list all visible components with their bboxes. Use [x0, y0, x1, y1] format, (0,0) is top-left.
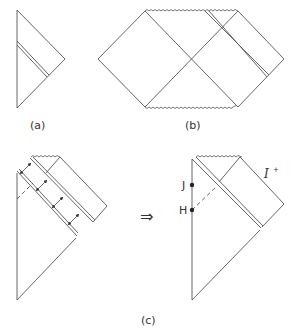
panel-b-left-edges	[98, 11, 145, 107]
panel-a-shell-line-2	[17, 45, 47, 77]
panel-c-right-diagram	[190, 156, 284, 301]
panel-c-left-arrow-1	[21, 164, 30, 173]
panel-c-label: (c)	[141, 314, 156, 327]
panel-a-diagram	[17, 10, 65, 108]
penrose-diagram-figure: (a) (b) ⇒ J	[0, 0, 295, 335]
panel-c-right-inner-edge	[219, 157, 240, 182]
panel-b-label: (b)	[185, 119, 201, 132]
point-h-label: H	[179, 204, 187, 217]
implies-arrow-icon: ⇒	[140, 207, 153, 226]
panel-c-left-arrow-2	[37, 181, 46, 190]
panel-b-right-edges	[238, 11, 284, 107]
panel-c-left-shell-outer-1	[30, 158, 93, 222]
panel-b-diagram	[98, 10, 284, 109]
panel-b-top-singularity	[145, 10, 238, 12]
point-j-dot	[190, 183, 194, 187]
panel-b-shell-line-2	[209, 11, 267, 77]
panel-c-left-shell-outer-2	[33, 157, 95, 220]
panel-c-right-shell-line-2	[196, 157, 263, 226]
panel-c-left-arrow-4	[69, 215, 78, 224]
panel-c-left-arrow-3	[53, 198, 62, 207]
scri-plus-superscript: +	[273, 166, 279, 174]
panel-c-right-dashed-line	[192, 188, 215, 210]
panel-c-right-shell-line-1	[192, 159, 261, 228]
panel-c-left-singularity	[31, 156, 60, 158]
panel-a-outline	[17, 10, 65, 108]
panel-c-left-diagram	[17, 156, 107, 301]
panel-a-label: (a)	[30, 119, 45, 132]
scri-plus-label: I	[263, 167, 269, 181]
panel-c-right-outline	[192, 159, 260, 300]
panel-c-right-singularity	[196, 156, 242, 158]
point-h-dot	[190, 208, 194, 212]
panel-c-left-inner-edge	[46, 157, 60, 173]
panel-a-shell-line-1	[17, 41, 49, 75]
panel-b-bottom-singularity	[145, 106, 236, 109]
point-j-label: J	[181, 179, 185, 192]
panel-c-left-shell-inner-1	[17, 171, 77, 236]
